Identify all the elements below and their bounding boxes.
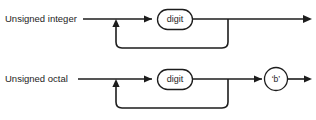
- diagram-2-arrowhead-into-digit: [144, 75, 152, 82]
- diagram-2-exit-arrowhead: [304, 76, 312, 83]
- diagram-unsigned-integer: Unsigned integer digit: [5, 10, 312, 49]
- diagram-1-loop-arrowhead: [112, 19, 119, 27]
- diagram-1-digit-label: digit: [167, 14, 184, 24]
- diagram-2-terminal-label: ‘b’: [272, 74, 281, 84]
- diagram-1-exit-arrowhead: [303, 15, 312, 23]
- diagram-2-digit-label: digit: [167, 74, 184, 84]
- syntax-diagram-figure: Unsigned integer digit Unsigned octal: [0, 0, 316, 120]
- railroad-diagram-canvas: Unsigned integer digit Unsigned octal: [0, 0, 316, 120]
- diagram-unsigned-octal: Unsigned octal digit ‘b’: [5, 68, 312, 109]
- diagram-1-arrowhead-into-digit: [144, 15, 152, 22]
- diagram-2-label: Unsigned octal: [5, 73, 68, 84]
- diagram-2-arrowhead-into-terminal: [254, 75, 262, 82]
- diagram-1-label: Unsigned integer: [5, 13, 77, 24]
- diagram-2-loop-arrowhead: [112, 79, 119, 87]
